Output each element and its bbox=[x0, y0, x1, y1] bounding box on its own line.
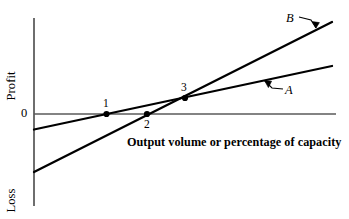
point-2-label: 2 bbox=[144, 119, 150, 131]
point-3-marker bbox=[182, 95, 188, 101]
profit-volume-chart: Profit 0 Loss Output volume or percentag… bbox=[0, 0, 349, 219]
y-axis-profit-label: Profit bbox=[5, 71, 18, 100]
y-axis-zero-tick-label: 0 bbox=[21, 107, 27, 120]
x-axis-caption: Output volume or percentage of capacity bbox=[127, 136, 341, 148]
series-b-leader-arrowhead bbox=[312, 22, 319, 28]
chart-plot-area bbox=[0, 0, 349, 219]
series-a-label: A bbox=[285, 84, 293, 97]
point-3-label: 3 bbox=[181, 82, 187, 94]
point-1-label: 1 bbox=[103, 98, 109, 110]
point-1-marker bbox=[103, 111, 109, 117]
y-axis-loss-label: Loss bbox=[5, 188, 18, 212]
series-b-label: B bbox=[286, 12, 294, 25]
point-2-marker bbox=[144, 111, 150, 117]
